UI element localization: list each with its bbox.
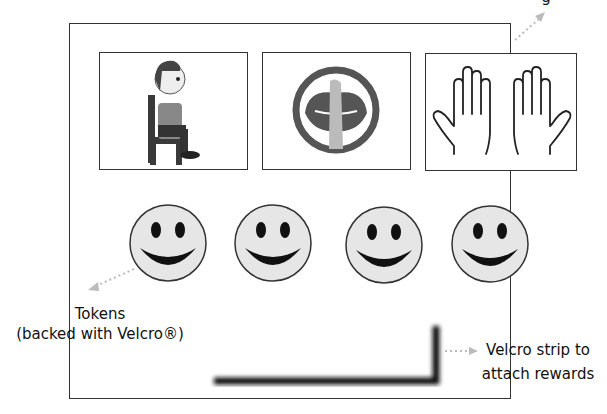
tokens-label-line1: Tokens xyxy=(40,303,160,325)
tokens-label-line2: (backed with Velcro®) xyxy=(0,323,200,345)
quiet-card xyxy=(262,52,411,170)
open-hands-icon xyxy=(426,54,578,172)
velcro-label-line1: Velcro strip to xyxy=(478,339,598,361)
top-right-label-partial: g xyxy=(536,0,556,8)
finger-on-lips-quiet-icon xyxy=(263,53,412,171)
sit-card xyxy=(99,52,248,170)
child-sitting-on-chair-icon xyxy=(100,53,249,171)
hands-card xyxy=(425,53,577,171)
velcro-label-line2: attach rewards xyxy=(478,363,598,385)
